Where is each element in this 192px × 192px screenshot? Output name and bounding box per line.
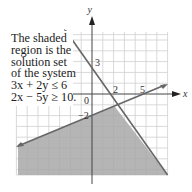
solution-region bbox=[18, 107, 168, 176]
x-axis-arrow-icon bbox=[172, 91, 181, 97]
x-axis-label: x bbox=[182, 88, 188, 99]
y-axis-arrow-icon bbox=[89, 16, 95, 25]
origin-label: 0 bbox=[84, 95, 89, 106]
tick-label-y-3: 3 bbox=[95, 57, 100, 68]
caption-line: 2x − 5y ≥ 10. bbox=[11, 92, 73, 104]
tick-label-x-5: 5 bbox=[140, 84, 145, 95]
y-axis-label: y bbox=[87, 4, 93, 15]
caption-box: The shaded region is the solution set of… bbox=[11, 31, 73, 106]
line-arrow-icon bbox=[160, 84, 168, 89]
tick-label-x-2: 2 bbox=[113, 84, 118, 95]
tick-label-y-neg2: −2 bbox=[78, 110, 89, 121]
